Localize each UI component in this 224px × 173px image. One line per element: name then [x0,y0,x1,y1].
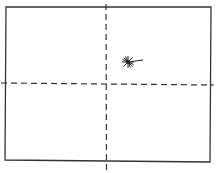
diagram-canvas [0,0,224,173]
vertical-dashed-axis [106,4,107,170]
diagram-svg [0,0,224,173]
starburst-marker-icon [122,56,143,68]
frame-rectangle [5,7,211,162]
horizontal-dashed-axis [1,83,214,85]
